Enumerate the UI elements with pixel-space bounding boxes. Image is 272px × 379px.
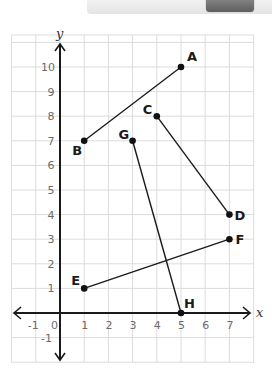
point-label-G: G bbox=[119, 127, 130, 142]
point-label-H: H bbox=[184, 296, 195, 311]
point-label-D: D bbox=[234, 208, 245, 223]
coordinate-plane: xy -101234567-112345678910 ABCDEFGH bbox=[0, 0, 272, 379]
x-tick-label: 7 bbox=[226, 319, 233, 332]
y-tick-label: 10 bbox=[41, 61, 55, 74]
point-E bbox=[81, 285, 88, 292]
y-tick-label: 4 bbox=[48, 209, 55, 222]
y-tick-label: 7 bbox=[48, 135, 55, 148]
point-label-A: A bbox=[187, 49, 197, 64]
y-tick-label: 5 bbox=[48, 184, 55, 197]
point-label-C: C bbox=[143, 102, 153, 117]
tick-labels: -101234567-112345678910 bbox=[28, 61, 234, 345]
x-tick-label: 3 bbox=[130, 319, 137, 332]
point-label-B: B bbox=[72, 143, 82, 158]
point-A bbox=[178, 64, 185, 71]
point-label-E: E bbox=[71, 273, 80, 288]
y-tick-label: 6 bbox=[48, 159, 55, 172]
point-G bbox=[129, 138, 136, 145]
x-tick-label: 1 bbox=[81, 319, 88, 332]
x-tick-label: 4 bbox=[154, 319, 161, 332]
point-C bbox=[154, 113, 161, 120]
x-tick-label: 5 bbox=[178, 319, 185, 332]
point-D bbox=[226, 211, 233, 218]
x-axis-label: x bbox=[256, 305, 264, 320]
point-label-F: F bbox=[235, 232, 244, 247]
y-tick-label: 2 bbox=[48, 258, 55, 271]
x-tick-label: -1 bbox=[28, 319, 39, 332]
y-tick-label: 1 bbox=[48, 282, 55, 295]
y-tick-label: 3 bbox=[48, 233, 55, 246]
y-tick-label: 8 bbox=[48, 110, 55, 123]
y-axis-label: y bbox=[55, 26, 64, 41]
labeled-points: ABCDEFGH bbox=[71, 49, 245, 316]
y-tick-label: -1 bbox=[41, 332, 52, 345]
y-tick-label: 9 bbox=[48, 86, 55, 99]
x-tick-label: 6 bbox=[202, 319, 209, 332]
x-tick-label: 0 bbox=[51, 319, 58, 332]
x-tick-label: 2 bbox=[105, 319, 112, 332]
point-F bbox=[226, 236, 233, 243]
